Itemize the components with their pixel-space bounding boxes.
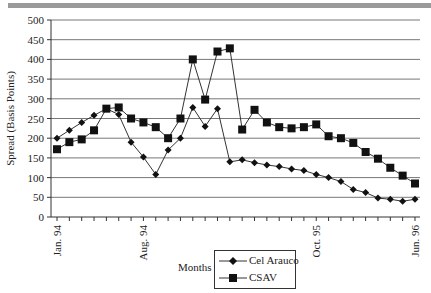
data-point (325, 132, 333, 140)
y-tick-label: 450 (28, 34, 45, 46)
data-point (226, 158, 233, 165)
legend-item-cel-arauco: Cel Arauco (215, 253, 295, 269)
x-tick-label: Oct. 95 (310, 225, 322, 258)
data-point (288, 124, 296, 132)
data-point (152, 171, 159, 178)
data-point (362, 189, 369, 196)
y-tick-label: 200 (28, 132, 45, 144)
data-point (202, 123, 209, 130)
data-point (90, 126, 98, 134)
data-point (152, 123, 160, 131)
data-point (325, 174, 332, 181)
data-point (349, 139, 357, 147)
y-tick-label: 350 (28, 73, 45, 85)
data-point (399, 172, 407, 180)
data-point (65, 138, 73, 146)
y-tick-label: 150 (28, 152, 45, 164)
data-point (53, 145, 61, 153)
data-point (411, 180, 419, 188)
data-point (139, 118, 147, 126)
legend-label: CSAV (249, 271, 277, 283)
data-point (251, 106, 259, 114)
series-line (57, 107, 415, 201)
data-point (189, 104, 196, 111)
data-point (350, 186, 357, 193)
data-point (313, 171, 320, 178)
data-point (263, 118, 271, 126)
y-tick-label: 500 (28, 14, 45, 26)
data-point (189, 55, 197, 63)
x-tick-label: Jun. 96 (409, 225, 421, 257)
data-point (78, 135, 86, 143)
data-point (251, 159, 258, 166)
data-point (214, 105, 221, 112)
data-point (374, 195, 381, 202)
data-point (226, 44, 234, 52)
data-point (337, 178, 344, 185)
legend: Cel Arauco CSAV (214, 250, 296, 289)
y-tick-label: 50 (33, 191, 45, 203)
data-point (201, 96, 209, 104)
square-marker-icon (219, 272, 247, 284)
data-point (399, 198, 406, 205)
data-point (78, 119, 85, 126)
data-point (115, 111, 122, 118)
y-tick-label: 400 (28, 53, 45, 65)
data-point (288, 165, 295, 172)
data-point (275, 123, 283, 131)
data-point (115, 103, 123, 111)
data-point (54, 135, 61, 142)
data-point (386, 164, 394, 172)
data-point (312, 120, 320, 128)
data-point (127, 115, 135, 123)
data-point (238, 126, 246, 134)
data-point (91, 112, 98, 119)
x-tick-label: Aug. 94 (137, 225, 149, 261)
data-point (213, 48, 221, 56)
y-tick-label: 100 (28, 172, 45, 184)
data-point (300, 123, 308, 131)
y-tick-label: 0 (39, 211, 45, 223)
y-axis-title: Spread (Basis Points) (4, 71, 17, 166)
data-point (176, 115, 184, 123)
data-point (66, 127, 73, 134)
data-point (374, 155, 382, 163)
x-axis-title: Months (178, 261, 212, 273)
data-point (164, 134, 172, 142)
data-point (276, 163, 283, 170)
diamond-marker-icon (219, 255, 247, 267)
data-point (300, 167, 307, 174)
legend-label: Cel Arauco (249, 254, 299, 266)
data-point (337, 134, 345, 142)
y-tick-label: 250 (28, 113, 45, 125)
x-tick-label: Jan. 94 (51, 225, 63, 257)
y-tick-label: 300 (28, 93, 45, 105)
data-point (362, 148, 370, 156)
data-point (263, 161, 270, 168)
series-line (57, 48, 415, 183)
legend-item-csav: CSAV (215, 270, 295, 286)
data-point (102, 105, 110, 113)
